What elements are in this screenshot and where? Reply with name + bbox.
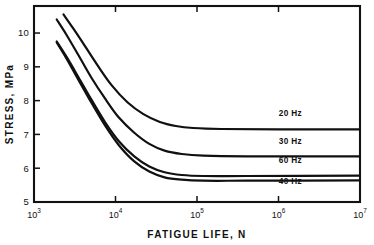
- x-axis-ticks: [116, 6, 279, 202]
- y-tick-label-7: 7: [24, 129, 29, 140]
- x-tick-label-10e5: 105: [190, 207, 204, 220]
- y-axis-tick-labels: 5678910: [18, 27, 29, 207]
- plot-frame: [34, 6, 360, 202]
- x-tick-label-10e4: 104: [109, 207, 123, 220]
- fatigue-life-chart: 103104105106107 5678910 20 Hz30 Hz60 Hz4…: [0, 0, 374, 245]
- chart-canvas: 103104105106107 5678910 20 Hz30 Hz60 Hz4…: [0, 0, 374, 245]
- curve-30-hz: [57, 20, 360, 157]
- x-tick-label-10e6: 106: [272, 207, 286, 220]
- x-axis-title: FATIGUE LIFE, N: [147, 229, 246, 240]
- y-tick-label-9: 9: [24, 61, 29, 72]
- x-tick-label-10e7: 107: [353, 207, 367, 220]
- curve-label-20-hz: 20 Hz: [279, 109, 302, 118]
- x-tick-label-10e3: 103: [27, 207, 41, 220]
- x-axis-tick-labels: 103104105106107: [27, 207, 367, 220]
- y-tick-label-6: 6: [24, 163, 29, 174]
- curve-label-40-hz: 40 Hz: [279, 177, 302, 186]
- y-tick-label-10: 10: [18, 27, 29, 38]
- curve-40-hz: [57, 43, 360, 181]
- y-axis-title: STRESS, MPa: [4, 64, 15, 144]
- curve-label-60-hz: 60 Hz: [279, 156, 302, 165]
- curve-20-hz: [63, 14, 360, 129]
- curve-label-30-hz: 30 Hz: [279, 137, 302, 146]
- y-tick-label-5: 5: [24, 196, 29, 207]
- y-tick-label-8: 8: [24, 95, 29, 106]
- data-curves: [57, 14, 360, 180]
